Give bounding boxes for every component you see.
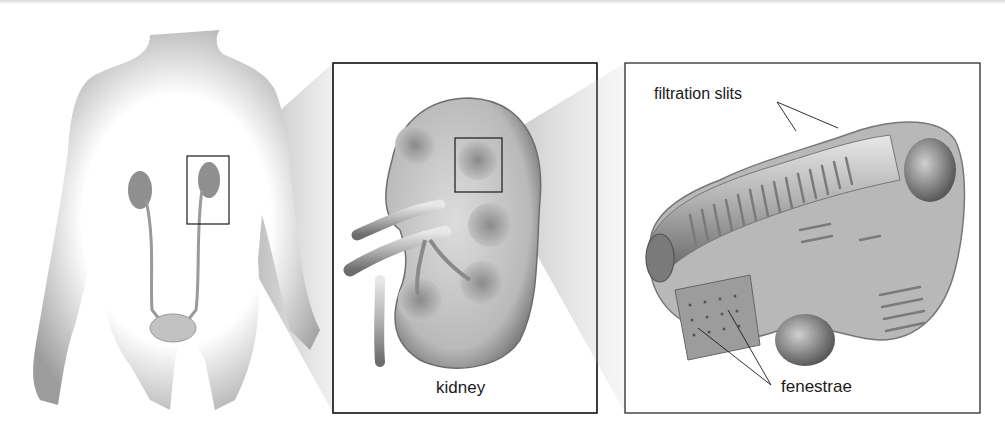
kidney-panel [333,63,625,413]
kidney-label: kidney [436,378,485,398]
body-silhouette [33,30,320,410]
diagram-artwork [0,0,1005,435]
filtration-slits-label: filtration slits [654,85,742,103]
capillary-panel [625,63,980,413]
fenestrae-label: fenestrae [781,377,852,397]
